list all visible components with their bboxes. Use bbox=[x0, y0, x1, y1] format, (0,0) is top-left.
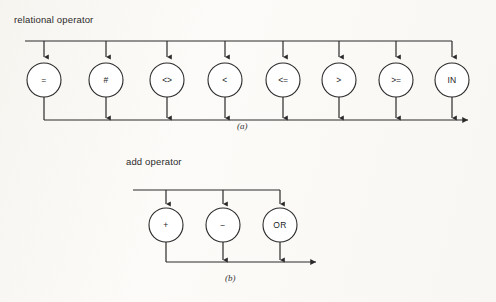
node-label-hash: # bbox=[103, 75, 108, 85]
operator-nodes-a bbox=[27, 63, 469, 97]
diagram-relational-operator bbox=[25, 41, 469, 120]
branch-lines-out-b bbox=[166, 242, 280, 262]
node-label-less-equal: <= bbox=[278, 75, 287, 85]
node-label-plus: + bbox=[163, 220, 168, 230]
diagram-title-add-operator: add operator bbox=[126, 156, 182, 167]
syntax-diagram-figure: relational operator = # <> < <= > >= IN … bbox=[0, 0, 496, 302]
diagram-title-relational-operator: relational operator bbox=[14, 14, 93, 25]
branch-lines-in-a bbox=[44, 41, 452, 57]
railroad-diagram-canvas bbox=[0, 0, 496, 302]
node-label-or: OR bbox=[273, 220, 286, 230]
branch-lines-out-a bbox=[44, 97, 452, 120]
node-label-not-equal: <> bbox=[162, 75, 171, 85]
branch-lines-in-b bbox=[166, 190, 280, 204]
node-label-in: IN bbox=[447, 75, 456, 85]
node-label-minus: − bbox=[220, 220, 225, 230]
figure-caption-b: (b) bbox=[225, 273, 236, 283]
node-label-equal: = bbox=[41, 75, 46, 85]
node-label-greater-equal: >= bbox=[391, 75, 400, 85]
node-label-less-than: < bbox=[222, 75, 227, 85]
node-label-greater-than: > bbox=[336, 75, 341, 85]
figure-caption-a: (a) bbox=[237, 121, 248, 131]
